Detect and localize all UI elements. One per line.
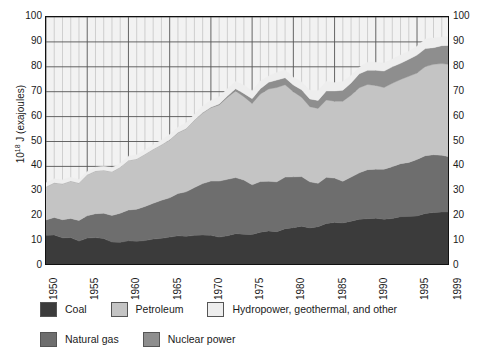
y-tick-label-left-10: 10 <box>20 235 42 245</box>
y-tick-label-left-30: 30 <box>20 185 42 195</box>
x-tick-label-1975: 1975 <box>255 278 265 300</box>
energy-consumption-stacked-area-chart: 1018 J (exajoules) 010203040506070809010… <box>0 0 491 363</box>
y-axis-left-ticks: 0102030405060708090100 <box>16 16 42 265</box>
chart-legend: CoalPetroleumHydropower, geothermal, and… <box>40 298 480 358</box>
plot-area <box>45 16 449 265</box>
y-tick-label-right-50: 50 <box>453 136 477 146</box>
x-tick-label-1985: 1985 <box>338 278 348 300</box>
y-tick-label-left-80: 80 <box>20 61 42 71</box>
x-tick-label-1990: 1990 <box>379 278 389 300</box>
y-tick-label-right-10: 10 <box>453 235 477 245</box>
y-tick-label-right-20: 20 <box>453 210 477 220</box>
x-tick-label-1950: 1950 <box>49 278 59 300</box>
x-tick-label-1980: 1980 <box>296 278 306 300</box>
y-tick-label-left-60: 60 <box>20 111 42 121</box>
legend-row-1: CoalPetroleumHydropower, geothermal, and… <box>40 298 421 320</box>
legend-item-nuclear-power[interactable]: Nuclear power <box>143 332 236 347</box>
legend-item-natural-gas[interactable]: Natural gas <box>40 332 119 347</box>
y-tick-label-left-0: 0 <box>20 260 42 270</box>
x-tick-label-1960: 1960 <box>131 278 141 300</box>
x-tick-label-1995: 1995 <box>420 278 430 300</box>
legend-swatch-icon <box>111 302 128 317</box>
y-tick-label-right-60: 60 <box>453 111 477 121</box>
y-axis-right-ticks: 0102030405060708090100 <box>453 16 483 265</box>
y-tick-label-left-20: 20 <box>20 210 42 220</box>
x-tick-label-1999: 1999 <box>453 278 463 300</box>
legend-row-2: Natural gasNuclear power <box>40 328 259 350</box>
y-tick-label-right-40: 40 <box>453 160 477 170</box>
legend-label: Coal <box>65 303 87 315</box>
legend-item-coal[interactable]: Coal <box>40 302 87 317</box>
y-tick-label-left-100: 100 <box>20 11 42 21</box>
y-tick-label-left-90: 90 <box>20 36 42 46</box>
y-tick-label-left-70: 70 <box>20 86 42 96</box>
x-tick-label-1955: 1955 <box>90 278 100 300</box>
x-tick-label-1965: 1965 <box>173 278 183 300</box>
y-tick-label-right-100: 100 <box>453 11 477 21</box>
stacked-area-svg <box>46 17 449 265</box>
y-tick-label-right-0: 0 <box>453 260 477 270</box>
y-tick-label-right-80: 80 <box>453 61 477 71</box>
x-tick-label-1970: 1970 <box>214 278 224 300</box>
y-tick-label-right-70: 70 <box>453 86 477 96</box>
legend-label: Petroleum <box>136 303 184 315</box>
legend-label: Nuclear power <box>168 333 236 345</box>
legend-swatch-icon <box>143 332 160 347</box>
y-tick-label-right-30: 30 <box>453 185 477 195</box>
legend-item-petroleum[interactable]: Petroleum <box>111 302 184 317</box>
legend-item-hydropower-geothermal-and-other[interactable]: Hydropower, geothermal, and other <box>207 302 397 317</box>
legend-swatch-icon <box>207 302 224 317</box>
legend-label: Natural gas <box>65 333 119 345</box>
y-tick-label-left-50: 50 <box>20 136 42 146</box>
legend-label: Hydropower, geothermal, and other <box>232 303 397 315</box>
series-areas <box>46 37 449 265</box>
y-tick-label-right-90: 90 <box>453 36 477 46</box>
legend-swatch-icon <box>40 332 57 347</box>
legend-swatch-icon <box>40 302 57 317</box>
y-tick-label-left-40: 40 <box>20 160 42 170</box>
